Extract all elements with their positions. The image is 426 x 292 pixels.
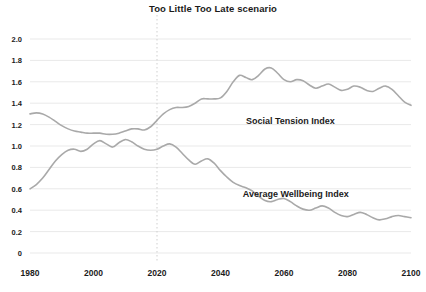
chart-container: Too Little Too Late scenario 00.20.40.60…: [0, 0, 426, 292]
x-axis-tick-label: 2000: [74, 268, 114, 278]
x-axis-tick-label: 2100: [391, 268, 426, 278]
x-axis-tick-label: 2060: [264, 268, 304, 278]
y-axis-tick-label: 0.2: [0, 227, 22, 236]
series-lines: [30, 68, 411, 220]
y-axis-tick-label: 0: [0, 249, 22, 258]
series-line-average-wellbeing-index: [30, 140, 411, 220]
y-axis-tick-label: 1.8: [0, 56, 22, 65]
x-axis-tick-label: 2040: [201, 268, 241, 278]
y-axis-tick-label: 0.8: [0, 163, 22, 172]
y-axis-tick-label: 1.2: [0, 120, 22, 129]
y-axis-tick-label: 2.0: [0, 35, 22, 44]
plot-area: [0, 0, 426, 292]
y-axis-tick-label: 1.0: [0, 142, 22, 151]
y-axis-tick-label: 1.6: [0, 77, 22, 86]
x-axis-tick-label: 2020: [137, 268, 177, 278]
annotation-social-tension-index: Social Tension Index: [246, 116, 335, 126]
x-axis-tick-label: 2080: [328, 268, 368, 278]
y-axis-tick-label: 0.6: [0, 184, 22, 193]
y-axis-tick-label: 0.4: [0, 206, 22, 215]
annotation-average-wellbeing-index: Average Wellbeing Index: [243, 189, 349, 199]
gridlines: [30, 39, 411, 253]
y-axis-tick-label: 1.4: [0, 99, 22, 108]
x-axis-tick-label: 1980: [10, 268, 50, 278]
